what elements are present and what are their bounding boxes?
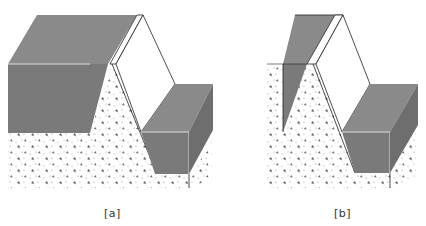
figure-a bbox=[8, 15, 213, 188]
upper-slab-front-a bbox=[8, 64, 108, 133]
figure-b-label: [b] bbox=[334, 207, 351, 220]
figure-b bbox=[267, 15, 418, 188]
figure-a-label: [a] bbox=[104, 207, 121, 220]
diagram-canvas bbox=[0, 0, 426, 226]
